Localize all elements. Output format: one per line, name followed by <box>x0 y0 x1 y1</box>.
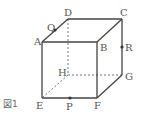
edge-BC <box>97 19 122 42</box>
label-H: H <box>58 67 67 78</box>
label-E: E <box>36 100 43 111</box>
label-P: P <box>66 101 73 112</box>
cube-diagram: A B C D E F G H Q R P 図1 <box>0 0 141 117</box>
label-D: D <box>64 7 72 18</box>
point-P <box>68 96 71 99</box>
label-R: R <box>125 42 133 53</box>
label-B: B <box>100 42 107 53</box>
label-Q: Q <box>47 22 55 33</box>
label-A: A <box>33 36 42 47</box>
figure-caption: 図1 <box>3 99 18 109</box>
label-F: F <box>94 100 101 111</box>
edge-HE <box>42 75 68 98</box>
label-G: G <box>125 71 133 82</box>
edge-FG <box>97 75 122 98</box>
point-R <box>120 45 123 48</box>
label-C: C <box>120 7 128 18</box>
